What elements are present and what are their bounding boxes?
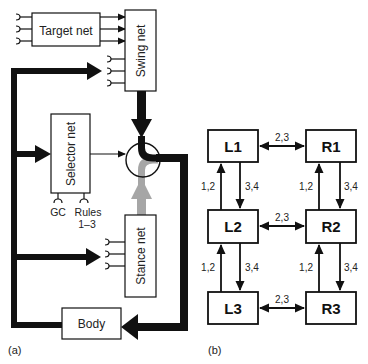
selector-net-label: Selector net bbox=[64, 121, 78, 186]
edge-l2-l1-label: 1,2 bbox=[201, 181, 215, 192]
edge-l2-l3-label: 3,4 bbox=[245, 262, 259, 273]
node-r3: R3 bbox=[306, 292, 356, 324]
node-l1-label: L1 bbox=[224, 138, 242, 155]
swing-net-box: Swing net bbox=[125, 10, 156, 91]
selector-input-receptors bbox=[54, 193, 88, 203]
node-l3: L3 bbox=[208, 292, 258, 324]
edge-r3-r2-label: 1,2 bbox=[299, 262, 313, 273]
node-r2: R2 bbox=[306, 210, 356, 243]
edge-r2-r1-label: 1,2 bbox=[299, 181, 313, 192]
stance-output-arrow bbox=[131, 178, 152, 215]
node-r1: R1 bbox=[306, 130, 356, 162]
node-r3-label: R3 bbox=[321, 300, 340, 317]
stance-net-feedback-receptors bbox=[105, 239, 125, 269]
body-label: Body bbox=[78, 317, 105, 331]
swing-net-label: Swing net bbox=[134, 24, 148, 77]
edge-l3-l2-label: 1,2 bbox=[201, 262, 215, 273]
edge-r1-r2-label: 3,4 bbox=[344, 181, 358, 192]
rules-input-label: Rules bbox=[75, 206, 102, 218]
target-net-label: Target net bbox=[39, 24, 93, 38]
target-net-input-receptors bbox=[16, 14, 32, 44]
edge-l3-r3-label: 2,3 bbox=[275, 294, 289, 305]
selector-net-box: Selector net bbox=[51, 114, 90, 193]
node-l2: L2 bbox=[208, 210, 258, 243]
edge-r2-r3-label: 3,4 bbox=[344, 262, 358, 273]
panel-b-label: (b) bbox=[208, 344, 221, 356]
node-r2-label: R2 bbox=[321, 218, 340, 235]
edge-l1-r1-label: 2,3 bbox=[275, 132, 289, 143]
figure-canvas: Target net Swing net bbox=[0, 0, 368, 364]
node-l2-label: L2 bbox=[224, 218, 242, 235]
edge-l1-l2-label: 3,4 bbox=[245, 181, 259, 192]
swing-net-feedback-receptors bbox=[107, 56, 125, 86]
horizontal-edges bbox=[260, 146, 304, 308]
edge-l2-r2-label: 2,3 bbox=[275, 212, 289, 223]
node-l3-label: L3 bbox=[224, 300, 242, 317]
panel-a: Target net Swing net bbox=[8, 10, 188, 356]
panel-b: L1 R1 L2 R2 L3 R3 2,3 2,3 2,3 bbox=[201, 130, 358, 356]
target-net-box: Target net bbox=[32, 13, 100, 46]
panel-a-label: (a) bbox=[8, 344, 21, 356]
target-to-swing-arrows bbox=[100, 17, 125, 41]
rules-range-label: 1–3 bbox=[78, 218, 96, 230]
node-r1-label: R1 bbox=[321, 138, 340, 155]
stance-net-label: Stance net bbox=[134, 227, 148, 285]
gc-input-label: GC bbox=[50, 206, 66, 218]
body-feedback-bus bbox=[11, 62, 102, 328]
body-box: Body bbox=[62, 308, 121, 339]
swing-output-arrow bbox=[131, 91, 152, 138]
node-l1: L1 bbox=[208, 130, 258, 162]
stance-net-box: Stance net bbox=[125, 215, 156, 297]
